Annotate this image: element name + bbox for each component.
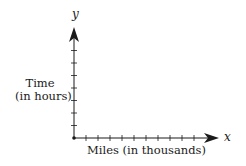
y-axis	[69, 27, 79, 138]
x-axis-symbol: x	[224, 130, 231, 144]
y-axis-symbol: y	[72, 7, 79, 21]
y-axis-label-line2: (in hours)	[15, 90, 65, 103]
x-axis	[72, 133, 219, 143]
x-axis-label: Miles (in thousands)	[87, 143, 206, 157]
origin-dot	[72, 136, 76, 140]
blank-coordinate-graph: y x Time (in hours) Miles (in thousands)	[0, 0, 246, 166]
y-axis-label: Time (in hours)	[15, 77, 65, 103]
